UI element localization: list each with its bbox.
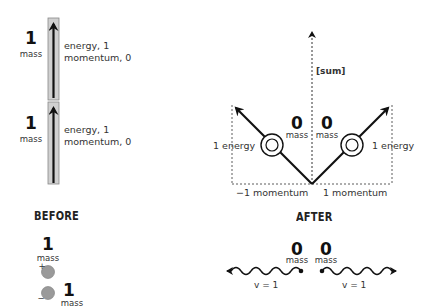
negative-charge: − [37,294,45,303]
right-velocity-label: v = 1 [342,280,366,291]
mass-label-bottom: mass [16,135,46,144]
mass-value-top: 1 [19,30,43,47]
left-momentum-label: −1 momentum [236,187,308,198]
energy-label-bottom: energy, 1 [64,124,109,135]
mass-value-bottom: 1 [19,115,43,132]
momentum-box [232,105,392,184]
energy-bar-bottom [48,102,59,184]
momentum-label-bottom: momentum, 0 [64,136,131,147]
momentum-label-top: momentum, 0 [64,52,131,63]
left-velocity-label: v = 1 [254,280,278,291]
mass-label-top: mass [16,50,46,59]
after-heading: AFTER [296,210,333,224]
pair-bottom-mass-label: mass [58,299,86,308]
left-mass-label: mass [284,131,310,140]
before-heading: BEFORE [34,209,79,223]
sum-label: [sum] [316,66,345,77]
positive-charge: + [38,262,46,271]
pair-bottom-mass-value: 1 [59,282,79,299]
right-energy-label: 1 energy [372,140,414,151]
right-photon-icon [341,134,363,156]
pair-top-mass-value: 1 [37,236,59,253]
right-wave-icon [320,268,396,275]
right-wave-mass-label: mass [313,256,339,265]
left-energy-label: 1 energy [213,140,255,151]
right-momentum-label: 1 momentum [323,187,387,198]
left-wave-mass-label: mass [284,256,310,265]
left-photon-icon [261,134,283,156]
right-mass-label: mass [314,131,340,140]
energy-bar-top [48,18,59,100]
energy-label-top: energy, 1 [64,40,109,51]
left-wave-icon [227,268,303,275]
